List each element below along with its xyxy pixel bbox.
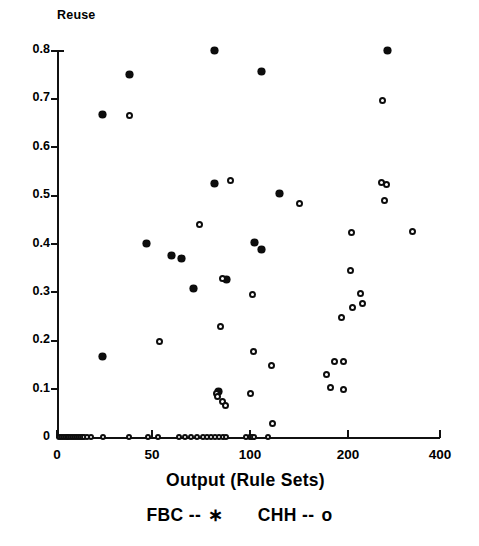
data-point-chh: [383, 181, 390, 188]
y-tick-label-0.8: 0.8: [6, 43, 50, 55]
scatter-plot-figure: Reuse 00.10.20.30.40.50.60.70.8050100200…: [0, 0, 479, 546]
data-point-chh: [196, 221, 203, 228]
data-point-fbc: [251, 239, 258, 246]
data-point-chh: [338, 314, 345, 321]
data-point-chh: [156, 338, 163, 345]
data-point-fbc: [126, 71, 133, 78]
y-tick-label-0.5: 0.5: [6, 188, 50, 200]
y-tick-label-0.7: 0.7: [6, 91, 50, 103]
data-point-fbc: [384, 47, 391, 54]
data-point-chh: [223, 434, 229, 440]
data-point-chh: [251, 434, 257, 440]
x-tick-label-0: 0: [31, 448, 83, 462]
y-tick-0.3: [51, 291, 58, 293]
x-axis-label: Output (Rule Sets): [6, 470, 479, 491]
data-point-chh: [379, 97, 386, 104]
y-tick-label-0.4: 0.4: [6, 237, 50, 249]
data-point-chh: [269, 420, 276, 427]
y-tick-label-0.3: 0.3: [6, 285, 50, 297]
y-tick-0.7: [51, 98, 58, 100]
x-tick-label-100: 100: [224, 448, 276, 462]
data-point-chh: [357, 290, 364, 297]
star-marker-icon: ∗: [208, 505, 223, 526]
y-tick-0.5: [51, 195, 58, 197]
data-point-chh: [145, 434, 151, 440]
legend-entry-fbc: FBC -- ∗: [146, 505, 223, 526]
y-tick-0.2: [51, 340, 58, 342]
data-point-fbc: [168, 252, 175, 259]
data-point-chh: [331, 358, 338, 365]
y-axis-top-cap: [57, 50, 64, 52]
data-point-fbc: [190, 285, 197, 292]
data-point-chh: [88, 434, 94, 440]
data-point-chh: [126, 112, 133, 119]
x-tick-label-200: 200: [322, 448, 374, 462]
data-point-chh: [249, 291, 256, 298]
data-point-fbc: [258, 68, 265, 75]
data-point-chh: [296, 200, 303, 207]
data-point-chh: [247, 390, 254, 397]
y-tick-0.4: [51, 243, 58, 245]
data-point-chh: [227, 177, 234, 184]
circle-marker-icon: o: [322, 505, 333, 526]
data-point-fbc: [143, 240, 150, 247]
x-tick-50: [151, 430, 153, 438]
data-point-chh: [222, 402, 229, 409]
legend-label-fbc: FBC --: [146, 505, 201, 526]
data-point-fbc: [99, 111, 106, 118]
data-point-chh: [409, 228, 416, 235]
data-point-fbc: [258, 246, 265, 253]
data-point-chh: [100, 434, 106, 440]
y-tick-0.6: [51, 146, 58, 148]
data-point-chh: [323, 371, 330, 378]
data-point-fbc: [99, 353, 106, 360]
data-point-chh: [219, 275, 226, 282]
data-point-chh: [217, 323, 224, 330]
y-tick-label-0.2: 0.2: [6, 333, 50, 345]
data-point-fbc: [276, 190, 283, 197]
data-point-chh: [155, 434, 161, 440]
data-point-chh: [126, 434, 132, 440]
x-tick-400: [439, 430, 441, 438]
y-tick-0.1: [51, 388, 58, 390]
x-tick-label-50: 50: [126, 448, 178, 462]
data-point-chh: [340, 386, 347, 393]
legend-entry-chh: CHH -- o: [258, 505, 333, 526]
data-point-fbc: [211, 180, 218, 187]
plot-area: 00.10.20.30.40.50.60.70.8050100200400: [0, 0, 479, 546]
x-tick-label-400: 400: [414, 448, 466, 462]
data-point-fbc: [178, 255, 185, 262]
data-point-chh: [381, 197, 388, 204]
y-tick-label-0.1: 0.1: [6, 382, 50, 394]
data-point-chh: [268, 362, 275, 369]
data-point-chh: [348, 229, 355, 236]
data-point-chh: [265, 434, 271, 440]
y-tick-label-0: 0: [6, 430, 50, 442]
data-point-chh: [347, 267, 354, 274]
data-point-chh: [340, 358, 347, 365]
data-point-chh: [359, 300, 366, 307]
data-point-chh: [250, 348, 257, 355]
legend: FBC -- ∗ CHH -- o: [0, 505, 479, 526]
legend-label-chh: CHH --: [258, 505, 315, 526]
data-point-chh: [349, 304, 356, 311]
data-point-fbc: [211, 47, 218, 54]
x-tick-200: [347, 430, 349, 438]
data-point-chh: [327, 384, 334, 391]
y-tick-label-0.6: 0.6: [6, 140, 50, 152]
